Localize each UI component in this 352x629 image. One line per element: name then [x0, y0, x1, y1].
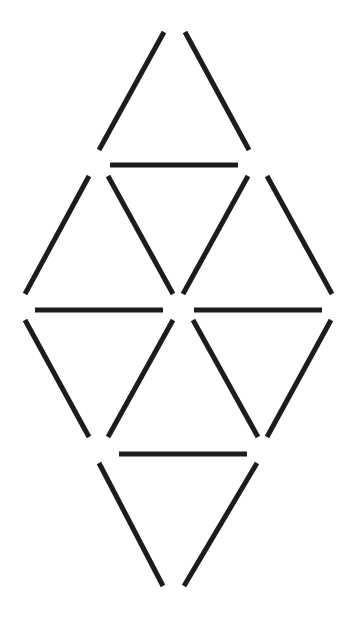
matchstick-s4 [25, 176, 89, 294]
matchstick-s2 [185, 32, 249, 150]
matchstick-s1 [99, 32, 164, 150]
matchstick-s16 [184, 463, 257, 586]
matchstick-s10 [25, 320, 89, 437]
matchstick-diagram [0, 0, 352, 629]
matchstick-s7 [267, 176, 332, 294]
matchstick-s13 [267, 320, 331, 437]
matchstick-s11 [108, 320, 173, 437]
matchstick-s12 [193, 320, 258, 437]
matchstick-s6 [183, 176, 248, 294]
matchstick-s5 [108, 176, 173, 294]
matchstick-s15 [99, 463, 163, 586]
